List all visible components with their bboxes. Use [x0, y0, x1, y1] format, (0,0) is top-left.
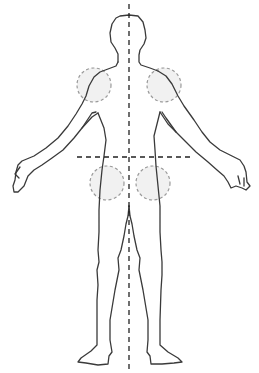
body-diagram-svg [0, 0, 259, 373]
left-hip-region [90, 166, 124, 200]
right-hand-detail [238, 176, 244, 186]
right-hip-region [136, 166, 170, 200]
right-armpit [162, 112, 176, 132]
left-shoulder-region [77, 68, 111, 102]
body-diagram [0, 0, 259, 373]
left-torso [78, 113, 129, 365]
right-torso [129, 112, 182, 364]
right-shoulder-region [147, 68, 181, 102]
body-outline [13, 15, 250, 365]
